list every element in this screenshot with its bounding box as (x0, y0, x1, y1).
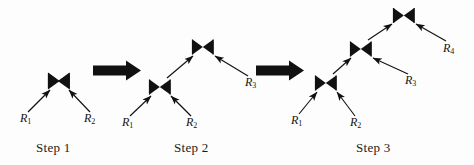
edge-s3-R3-to-join2 (373, 58, 408, 74)
relation-label-s1-R1: R1 (20, 111, 31, 126)
join-node-s3-join1 (316, 76, 337, 91)
edge-s1-R2-to-join (69, 90, 90, 112)
edge-s2-join1-to-join2 (167, 56, 193, 78)
edge-s3-R1-to-join1 (299, 92, 317, 114)
join-node-s2-join2 (193, 40, 214, 55)
join-node-s3-join2 (351, 42, 372, 57)
edge-s3-join1-to-join2 (333, 58, 351, 74)
step-caption-1: Step 1 (36, 140, 71, 156)
relation-label-s2-R2: R2 (186, 115, 197, 130)
edge-s2-R2-to-join1 (171, 96, 191, 116)
step-caption-2: Step 2 (174, 140, 209, 156)
relation-label-s3-R3: R3 (405, 73, 416, 88)
edge-s3-R2-to-join1 (337, 92, 355, 116)
transition-arrow-2-3 (256, 61, 304, 81)
edge-s3-R4-to-join3 (416, 24, 446, 41)
join-node-s2-join1 (150, 80, 171, 95)
relation-label-s1-R2: R2 (84, 111, 95, 126)
step-1-group (28, 74, 90, 113)
edge-s3-join2-to-join3 (368, 24, 392, 40)
edge-s2-R3-to-join2 (215, 56, 248, 76)
relation-label-s3-R4: R4 (443, 41, 454, 56)
step-3-group (299, 8, 446, 116)
relation-label-s3-R1: R1 (291, 113, 302, 128)
transition-arrow-1-2 (93, 61, 141, 81)
relation-label-s2-R3: R3 (245, 75, 256, 90)
join-node-s3-join3 (394, 8, 415, 23)
edge-s2-R1-to-join1 (130, 96, 151, 116)
relation-label-s2-R1: R1 (122, 115, 133, 130)
join-node-s1-join1 (49, 74, 70, 89)
join-tree-figure (0, 0, 474, 165)
step-caption-3: Step 3 (356, 140, 391, 156)
edge-s1-R1-to-join (28, 90, 50, 112)
step-2-group (130, 40, 248, 117)
relation-label-s3-R2: R2 (350, 115, 361, 130)
